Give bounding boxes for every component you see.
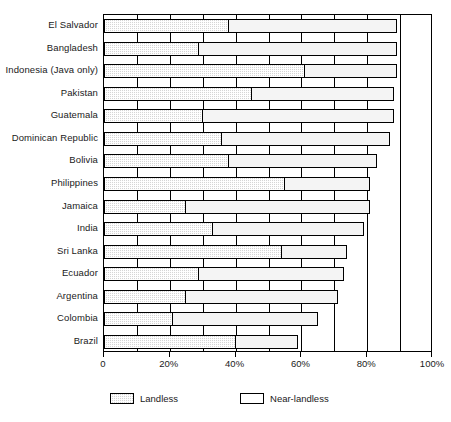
x-tick-label-40: 40%	[225, 358, 244, 369]
y-axis-label-india: India	[77, 223, 98, 233]
bar-segment-near-landless	[198, 42, 396, 56]
x-tick-0	[103, 352, 104, 357]
bar-segment-landless	[104, 267, 199, 281]
y-axis-label-guatemala: Guatemala	[51, 110, 98, 120]
bar-segment-landless	[104, 222, 213, 236]
bar-row	[104, 245, 433, 259]
y-axis-label-argentina: Argentina	[56, 291, 98, 301]
bar-row	[104, 290, 433, 304]
y-axis-label-indonesia-java-only: Indonesia (Java only)	[6, 65, 98, 75]
bar-row	[104, 335, 433, 349]
legend-swatch-icon	[240, 393, 264, 404]
bar-row	[104, 222, 433, 236]
y-axis-label-sri-lanka: Sri Lanka	[57, 246, 98, 256]
bar-segment-landless	[104, 132, 222, 146]
bar-segment-landless	[104, 335, 236, 349]
x-tick-label-80: 80%	[357, 358, 376, 369]
x-tick-100	[431, 352, 432, 357]
chart-legend: LandlessNear-landless	[110, 390, 329, 406]
bar-segment-near-landless	[202, 109, 394, 123]
bar-segment-near-landless	[251, 87, 393, 101]
bar-segment-near-landless	[172, 312, 318, 326]
bar-segment-landless	[104, 312, 173, 326]
bar-segment-near-landless	[212, 222, 364, 236]
bar-row	[104, 109, 433, 123]
y-axis-label-colombia: Colombia	[57, 313, 98, 323]
bar-segment-near-landless	[228, 19, 397, 33]
bar-row	[104, 154, 433, 168]
y-axis-label-ecuador: Ecuador	[62, 268, 98, 278]
bar-segment-landless	[104, 177, 285, 191]
x-tick-label-20: 20%	[159, 358, 178, 369]
bar-segment-landless	[104, 245, 282, 259]
y-axis-label-dominican-republic: Dominican Republic	[12, 133, 98, 143]
bar-row	[104, 42, 433, 56]
x-tick-40	[235, 352, 236, 357]
bar-row	[104, 267, 433, 281]
x-axis-tick-labels: 020%40%60%80%100%	[0, 358, 451, 372]
y-axis-category-labels: El SalvadorBangladeshIndonesia (Java onl…	[0, 14, 98, 352]
bar-row	[104, 177, 433, 191]
y-axis-label-bolivia: Bolivia	[69, 155, 98, 165]
x-tick-label-0: 0	[100, 358, 105, 369]
bar-segment-landless	[104, 87, 252, 101]
y-axis-label-philippines: Philippines	[51, 178, 98, 188]
legend-label: Landless	[140, 393, 178, 404]
y-axis-label-pakistan: Pakistan	[61, 88, 98, 98]
bar-segment-near-landless	[185, 200, 370, 214]
bar-segment-near-landless	[185, 290, 337, 304]
bar-rows	[104, 15, 431, 351]
bar-row	[104, 19, 433, 33]
bar-segment-landless	[104, 200, 186, 214]
bar-row	[104, 200, 433, 214]
stacked-bar-chart: El SalvadorBangladeshIndonesia (Java onl…	[0, 0, 451, 422]
bar-segment-landless	[104, 19, 229, 33]
bar-segment-landless	[104, 42, 199, 56]
x-tick-80	[366, 352, 367, 357]
y-axis-label-bangladesh: Bangladesh	[47, 43, 98, 53]
bar-segment-near-landless	[281, 245, 348, 259]
x-tick-20	[169, 352, 170, 357]
bar-row	[104, 132, 433, 146]
legend-swatch-icon	[110, 393, 134, 404]
y-axis-label-el-salvador: El Salvador	[48, 20, 98, 30]
x-tick-label-60: 60%	[291, 358, 310, 369]
legend-label: Near-landless	[270, 393, 329, 404]
bar-segment-near-landless	[304, 64, 397, 78]
bar-row	[104, 87, 433, 101]
bar-segment-near-landless	[198, 267, 344, 281]
bar-segment-landless	[104, 290, 186, 304]
x-tick-label-100: 100%	[420, 358, 444, 369]
bar-row	[104, 312, 433, 326]
bar-segment-near-landless	[235, 335, 299, 349]
bar-segment-near-landless	[228, 154, 377, 168]
y-axis-label-brazil: Brazil	[74, 336, 98, 346]
y-axis-label-jamaica: Jamaica	[62, 201, 98, 211]
bar-row	[104, 64, 433, 78]
bar-segment-landless	[104, 64, 305, 78]
legend-item-near-landless[interactable]: Near-landless	[240, 393, 329, 404]
bar-segment-near-landless	[221, 132, 390, 146]
plot-area	[103, 14, 432, 352]
bar-segment-landless	[104, 154, 229, 168]
x-tick-60	[300, 352, 301, 357]
bar-segment-landless	[104, 109, 203, 123]
legend-item-landless[interactable]: Landless	[110, 393, 178, 404]
bar-segment-near-landless	[284, 177, 371, 191]
